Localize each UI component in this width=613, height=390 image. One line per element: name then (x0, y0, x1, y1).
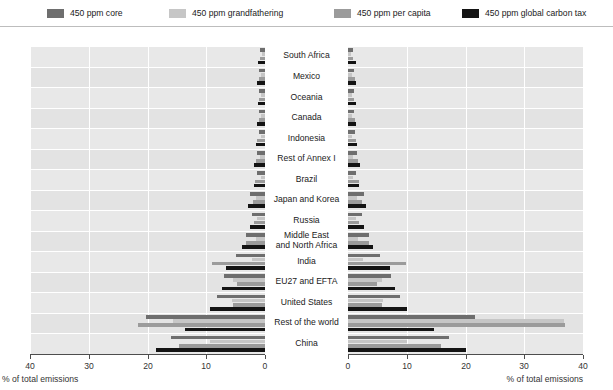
bar-per_capita (348, 282, 377, 286)
legend-swatch-grandfathering (169, 9, 186, 18)
bar-grandfathering (233, 278, 265, 282)
bar-per_capita (348, 139, 356, 143)
legend-label-per_capita: 450 ppm per capita (357, 8, 431, 18)
bar-carbon_tax (226, 266, 265, 270)
panel-right (348, 46, 583, 354)
legend-swatch-per_capita (334, 9, 351, 18)
bar-core (348, 171, 356, 175)
bar-grandfathering (173, 319, 265, 323)
left-ticklabel-20: 20 (134, 361, 162, 371)
legend-label-grandfathering: 450 ppm grandfathering (192, 8, 283, 18)
bar-grandfathering (348, 176, 353, 180)
bar-per_capita (255, 180, 265, 184)
bar-core (348, 151, 357, 155)
bar-per_capita (233, 303, 265, 307)
bar-per_capita (348, 262, 406, 266)
bar-per_capita (348, 118, 355, 122)
left-ticklabel-40: 40 (16, 361, 44, 371)
right-tick-0 (348, 355, 349, 359)
bar-core (348, 89, 354, 93)
bar-core (146, 315, 265, 319)
left-tick-0 (265, 355, 266, 359)
bar-carbon_tax (348, 245, 373, 249)
category-label-middle-east-and-north-africa: Middle East and North Africa (265, 231, 348, 250)
bar-core (217, 295, 265, 299)
left-ticklabel-0: 0 (251, 361, 279, 371)
bar-carbon_tax (248, 204, 265, 208)
legend-swatch-carbon_tax (462, 9, 479, 18)
category-label-canada: Canada (265, 113, 348, 123)
chart-legend: 450 ppm core450 ppm grandfathering450 pp… (0, 0, 613, 26)
bar-core (257, 151, 265, 155)
gridline-30 (524, 46, 525, 354)
bar-carbon_tax (348, 61, 356, 65)
legend-item-grandfathering[interactable]: 450 ppm grandfathering (169, 8, 283, 18)
right-ticklabel-30: 30 (510, 361, 538, 371)
category-label-oceania: Oceania (265, 93, 348, 103)
bar-carbon_tax (348, 225, 364, 229)
category-label-column: South AfricaMexicoOceaniaCanadaIndonesia… (265, 46, 348, 354)
bar-per_capita (246, 241, 265, 245)
bar-grandfathering (348, 155, 353, 159)
category-label-india: India (265, 257, 348, 267)
bar-core (224, 274, 265, 278)
category-label-brazil: Brazil (265, 175, 348, 185)
bar-carbon_tax (348, 184, 359, 188)
legend-swatch-core (47, 9, 64, 18)
bar-per_capita (348, 344, 441, 348)
bar-per_capita (348, 77, 355, 81)
bar-per_capita (257, 139, 265, 143)
bar-core (236, 254, 265, 258)
bar-carbon_tax (256, 143, 265, 147)
left-tick-30 (89, 355, 90, 359)
bar-carbon_tax (257, 81, 265, 85)
legend-label-core: 450 ppm core (70, 8, 123, 18)
bar-core (348, 295, 400, 299)
category-label-united-states: United States (265, 298, 348, 308)
bar-grandfathering (348, 93, 352, 97)
bar-core (348, 254, 380, 258)
right-tick-40 (583, 355, 584, 359)
bar-per_capita (254, 221, 265, 225)
bar-carbon_tax (250, 225, 265, 229)
bar-carbon_tax (348, 204, 366, 208)
bar-carbon_tax (156, 348, 265, 352)
gridline-30 (89, 46, 90, 354)
bar-per_capita (348, 57, 353, 61)
category-label-eu27-and-efta: EU27 and EFTA (265, 277, 348, 287)
category-label-south-africa: South Africa (265, 51, 348, 61)
legend-item-core[interactable]: 450 ppm core (47, 8, 123, 18)
right-tick-30 (524, 355, 525, 359)
bar-carbon_tax (254, 184, 265, 188)
right-tick-20 (466, 355, 467, 359)
bar-grandfathering (348, 237, 358, 241)
category-label-rest-of-annex-i: Rest of Annex I (265, 154, 348, 164)
bar-per_capita (348, 159, 358, 163)
gridline-10 (407, 46, 408, 354)
bar-core (246, 233, 265, 237)
bar-core (348, 48, 353, 52)
bar-carbon_tax (222, 287, 265, 291)
bar-grandfathering (348, 258, 363, 262)
bar-grandfathering (232, 299, 265, 303)
bar-per_capita (348, 98, 354, 102)
bar-core (348, 233, 369, 237)
right-ticklabel-10: 10 (393, 361, 421, 371)
bar-grandfathering (256, 196, 265, 200)
bar-core (348, 274, 391, 278)
gridline-10 (206, 46, 207, 354)
legend-label-carbon_tax: 450 ppm global carbon tax (485, 8, 586, 18)
bar-per_capita (256, 159, 265, 163)
legend-item-carbon_tax[interactable]: 450 ppm global carbon tax (462, 8, 586, 18)
left-tick-40 (30, 355, 31, 359)
gridline-20 (148, 46, 149, 354)
panel-left (30, 46, 265, 354)
bar-per_capita (348, 200, 362, 204)
bar-carbon_tax (254, 163, 265, 167)
legend-item-per_capita[interactable]: 450 ppm per capita (334, 8, 431, 18)
bar-carbon_tax (348, 143, 357, 147)
bar-carbon_tax (258, 102, 265, 106)
category-label-china: China (265, 339, 348, 349)
bar-carbon_tax (348, 348, 466, 352)
right-axis-caption: % of total emissions (491, 374, 583, 384)
